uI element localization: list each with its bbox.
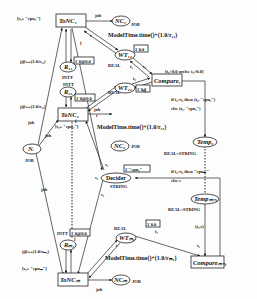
svg-text:NC₁: NC₁ (114, 17, 126, 24)
svg-text:1`0.0: 1`0.0 (135, 47, 145, 52)
arc-inscription: ModelTime.time()+(1.0/r₂₁) (97, 124, 166, 131)
svg-text:Tempₘ₋₁: Tempₘ₋₁ (194, 195, 218, 202)
svg-text:Decider: Decider (106, 175, 126, 181)
transition-tonc1: ToNC₁ (56, 14, 86, 27)
svg-text:REAL×STRING: REAL×STRING (164, 151, 197, 156)
svg-text:t₁: t₁ (143, 64, 146, 69)
diagram-canvas: ToNC₁ ToNC₂ ToNCₘ Compare₁ Compareₘ₋₁ Nᵢ… (0, 0, 257, 299)
transition-compare1: Compare₁ (152, 74, 182, 86)
svg-text:job: job (93, 107, 101, 112)
place-wtm1: WTₘ₁ REAL 1`0.0 (114, 220, 160, 243)
arc-inscription: if t₁>t₂ then (t₂, "cpu₂") (171, 97, 216, 102)
svg-text:job: job (27, 120, 35, 125)
guard-toncm: [s₁= "cpuₘ"] (22, 266, 47, 271)
petri-net-diagram: ToNC₁ ToNC₂ ToNCₘ Compare₁ Compareₘ₋₁ Nᵢ… (0, 0, 257, 299)
guard-compare1: [t₁>0.0 orelse t₂>0.0] (165, 69, 204, 74)
svg-text:Temp₁: Temp₁ (197, 138, 214, 145)
svg-text:t₁: t₁ (130, 64, 133, 69)
transition-label: Compareₘ₋₁ (193, 259, 227, 266)
guard-tonc2: [s₁= "cpu₂"] (55, 124, 79, 129)
arc-inscription: (t₁,s) (195, 224, 204, 229)
svg-text:job: job (44, 133, 52, 138)
svg-text:t₁: t₁ (155, 229, 158, 234)
svg-text:1`0@0.0: 1`0@0.0 (71, 231, 88, 236)
arc-inscription: ModelTime.time()+(1.0/r₁₁) (108, 32, 177, 39)
svg-text:1`0@0.0: 1`0@0.0 (75, 59, 92, 64)
svg-text:R₁₁: R₁₁ (63, 63, 73, 70)
svg-text:NC₂: NC₂ (113, 142, 125, 149)
svg-text:1`0@0.0: 1`0@0.0 (76, 96, 93, 101)
svg-text:STRING: STRING (110, 184, 128, 189)
svg-text:INTT: INTT (57, 231, 68, 236)
place-temp-m1: Tempₘ₋₁ REAL×STRING (168, 194, 219, 212)
place-ni: Nᵢ JOB (23, 144, 41, 163)
svg-text:INTT: INTT (63, 82, 74, 87)
place-wt11: WT₁₁ REAL 1`0.0 (108, 45, 148, 68)
arc-inscription: j@++(1.0/r₂₁) (19, 104, 46, 109)
svg-text:t: t (90, 33, 92, 38)
svg-text:j: j (79, 40, 82, 45)
place-r21: R₂₁ INTT 1`0@0.0 (60, 82, 95, 101)
svg-text:1`0.0: 1`0.0 (147, 222, 157, 227)
arc-inscription: if t₁>t₂ then "cpuₘ" (171, 169, 209, 174)
svg-text:s₁: s₁ (95, 175, 99, 180)
transition-label: Compare₁ (154, 77, 181, 84)
transition-label: ToNCₘ (60, 276, 81, 283)
transition-label: ToNC₂ (61, 111, 79, 118)
svg-text:JOB: JOB (131, 22, 140, 27)
place-decider: Decider STRING 1`"cpu₁" (101, 165, 150, 189)
svg-text:job: job (94, 13, 102, 18)
arc-inscription: j@++(1.0/r₁₁) (19, 59, 46, 64)
svg-text:s₁: s₁ (105, 162, 109, 167)
place-r11: R₁₁ INTT 1`0@0.0 (60, 57, 94, 80)
svg-text:t₂: t₂ (133, 76, 136, 81)
svg-text:Rₘ₁: Rₘ₁ (63, 241, 75, 248)
place-nc2: NC₂ JOB (111, 141, 140, 151)
place-temp1: Temp₁ REAL×STRING (164, 137, 217, 156)
transition-tonc2: ToNC₂ (58, 108, 88, 121)
arc-inscription: else (t₁, "cpu₁") (171, 106, 201, 111)
svg-text:JOB: JOB (25, 158, 34, 163)
svg-text:INTT: INTT (62, 75, 73, 80)
transition-compare-m1: Compareₘ₋₁ (191, 256, 227, 268)
svg-text:j: j (73, 236, 76, 241)
svg-text:REAL: REAL (114, 226, 127, 231)
guard-tonc1: [s₁= "cpu₁"] (17, 16, 41, 21)
arc-inscription: else s (171, 178, 181, 183)
svg-text:NCₘ: NCₘ (113, 276, 128, 283)
arc-inscription: ModelTime.time()+(1.0/rₘ₁) (105, 255, 176, 262)
transition-toncm: ToNCₘ (58, 273, 88, 286)
svg-text:REAL×STRING: REAL×STRING (168, 207, 201, 212)
place-nc1: NC₁ JOB (112, 16, 140, 27)
svg-text:REAL: REAL (108, 90, 121, 95)
svg-text:WTₘ₁: WTₘ₁ (119, 234, 135, 241)
svg-text:R₂₁: R₂₁ (63, 88, 73, 95)
svg-text:REAL: REAL (108, 63, 121, 68)
svg-text:Nᵢ: Nᵢ (27, 145, 34, 152)
svg-text:JOB: JOB (132, 279, 141, 284)
arc-inscription: j@++(1.0/rₘ₁) (21, 249, 50, 254)
svg-text:WT₁₁: WT₁₁ (118, 51, 132, 58)
svg-text:t₂: t₂ (197, 243, 200, 248)
svg-text:job: job (95, 287, 103, 292)
svg-text:1`"cpu₁": 1`"cpu₁" (125, 167, 142, 172)
svg-text:job: job (40, 187, 48, 192)
transition-label: ToNC₁ (59, 17, 77, 24)
place-ncm: NCₘ JOB (112, 275, 141, 285)
svg-text:s₁: s₁ (101, 192, 105, 197)
svg-text:JOB: JOB (131, 144, 140, 149)
